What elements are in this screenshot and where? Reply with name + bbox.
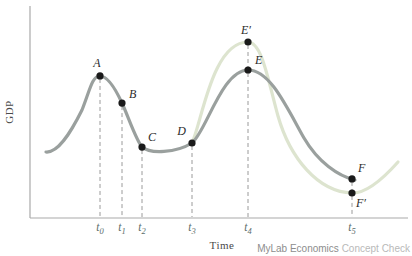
data-point-layer [96, 38, 355, 196]
point-F′ [348, 189, 355, 196]
x-axis-title: Time [210, 239, 235, 251]
point-B [118, 99, 125, 106]
point-D [188, 139, 195, 146]
point-label-D: D [176, 124, 186, 138]
point-C [138, 143, 145, 150]
tick-label-layer: t0t1t2t3t4t5 [96, 221, 355, 236]
point-label-E′: E′ [240, 23, 251, 37]
chart-canvas: ABCDEFE′F′ t0t1t2t3t4t5 GDP Time [0, 0, 412, 256]
actual-gdp-curve [46, 70, 355, 180]
point-label-B: B [129, 87, 137, 101]
gdp-business-cycle-figure: ABCDEFE′F′ t0t1t2t3t4t5 GDP Time MyLab E… [0, 0, 412, 256]
tick-label-t1: t1 [118, 221, 125, 236]
point-label-F′: F′ [355, 196, 366, 210]
point-label-A: A [92, 56, 101, 70]
watermark-brand: MyLab Economics [257, 243, 339, 254]
mylab-watermark: MyLab Economics Concept Check [257, 243, 410, 254]
tick-label-t3: t3 [188, 221, 195, 236]
watermark-suffix: Concept Check [342, 243, 410, 254]
point-label-C: C [148, 130, 157, 144]
point-A [96, 72, 103, 79]
point-E [244, 66, 251, 73]
alternative-gdp-curve [192, 42, 398, 193]
tick-label-t0: t0 [96, 221, 104, 236]
tick-label-t4: t4 [244, 221, 252, 236]
tick-label-t2: t2 [138, 221, 146, 236]
dropline-layer [100, 45, 352, 217]
y-axis-title: GDP [3, 100, 15, 124]
point-label-E: E [254, 53, 263, 67]
tick-label-t5: t5 [348, 221, 355, 236]
point-F [348, 175, 355, 182]
point-E′ [244, 38, 251, 45]
point-label-F: F [357, 161, 366, 175]
